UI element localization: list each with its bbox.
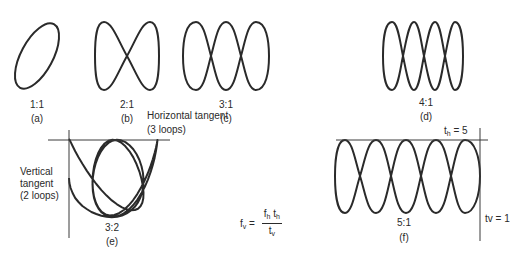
figure-a-caption: (a) bbox=[31, 113, 43, 124]
figure-b-curve bbox=[95, 22, 159, 90]
figure-d-curve bbox=[383, 22, 463, 90]
figure-d-ratio: 4:1 bbox=[419, 97, 433, 108]
figure-b-caption: (b) bbox=[121, 113, 133, 124]
figure-e-caption: (e) bbox=[106, 236, 118, 247]
figure-c-curve bbox=[183, 22, 269, 90]
figure-b-ratio: 2:1 bbox=[120, 99, 134, 110]
figure-f-curve bbox=[335, 140, 480, 213]
formula-fraction: fh th tv bbox=[262, 208, 282, 239]
figure-f-tv-label: tv = 1 bbox=[485, 212, 510, 225]
figure-f-caption: (f) bbox=[399, 232, 408, 243]
formula-denominator: tv bbox=[269, 224, 275, 239]
figure-e-horizontal-loops-label: (3 loops) bbox=[147, 123, 186, 136]
figure-e-curve bbox=[69, 140, 158, 218]
lissajous-diagram: 1:1 (a) 2:1 (b) 3:1 (c) 4:1 (d) Horizont… bbox=[0, 0, 523, 256]
formula-numerator: fh th bbox=[262, 208, 282, 224]
figure-e-vertical-loops-label: (2 loops) bbox=[20, 189, 59, 202]
formula-equals: = bbox=[246, 218, 257, 229]
frequency-formula: fv = fh th tv bbox=[240, 208, 282, 239]
figure-e-horizontal-tangent-label: Horizontal tangent bbox=[147, 109, 228, 122]
figure-d-caption: (d) bbox=[420, 111, 432, 122]
figure-a-curve bbox=[6, 17, 68, 96]
figure-a-ratio: 1:1 bbox=[30, 99, 44, 110]
figure-f-ratio: 5:1 bbox=[397, 217, 411, 228]
figure-e-ratio: 3:2 bbox=[105, 222, 119, 233]
figure-f-th-label: th = 5 bbox=[444, 124, 468, 140]
